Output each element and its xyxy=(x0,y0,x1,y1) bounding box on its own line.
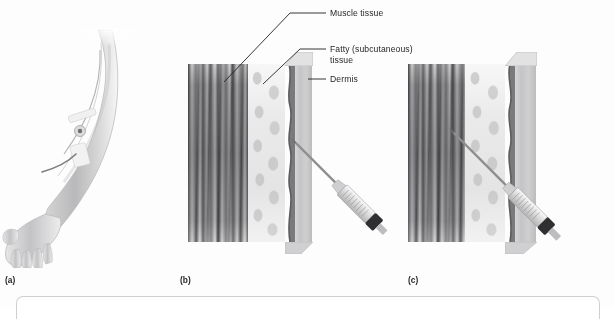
muscle-layer-b xyxy=(188,64,248,242)
tape-upper xyxy=(68,108,97,123)
syringe-c[interactable] xyxy=(448,128,598,268)
caption-container xyxy=(16,296,600,319)
panel-letter-c: (c) xyxy=(408,275,418,285)
panel-letter-a: (a) xyxy=(5,275,15,285)
arm-svg xyxy=(2,28,134,268)
syringe-b[interactable] xyxy=(288,136,408,266)
needle-b xyxy=(295,142,336,183)
block-bevel-c xyxy=(505,52,537,66)
callout-label-dermis: Dermis xyxy=(330,74,358,85)
needle-bevel-b xyxy=(291,138,297,144)
block-bevel-b xyxy=(285,52,313,66)
needle-bevel-c xyxy=(448,127,455,134)
fat-layer-b xyxy=(248,64,285,242)
arm-illustration xyxy=(2,28,134,268)
catheter-port xyxy=(78,129,82,133)
needle-c xyxy=(453,132,507,186)
callout-label-muscle: Muscle tissue xyxy=(330,8,383,19)
syringe-barrel-b xyxy=(337,185,375,223)
callout-label-fatty: Fatty (subcutaneous) tissue xyxy=(330,44,413,66)
top-fade xyxy=(80,28,134,54)
panel-letter-b: (b) xyxy=(180,275,191,285)
